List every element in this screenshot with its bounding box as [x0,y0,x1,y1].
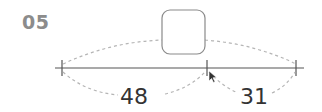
number-line-diagram: 48 31 [0,0,322,112]
answer-box[interactable] [162,10,205,54]
segment-label-31: 31 [240,84,268,109]
mouse-cursor-icon [209,71,217,83]
top-arc-right [205,40,296,64]
top-arc-left [63,40,162,64]
segment-label-48: 48 [120,84,148,109]
